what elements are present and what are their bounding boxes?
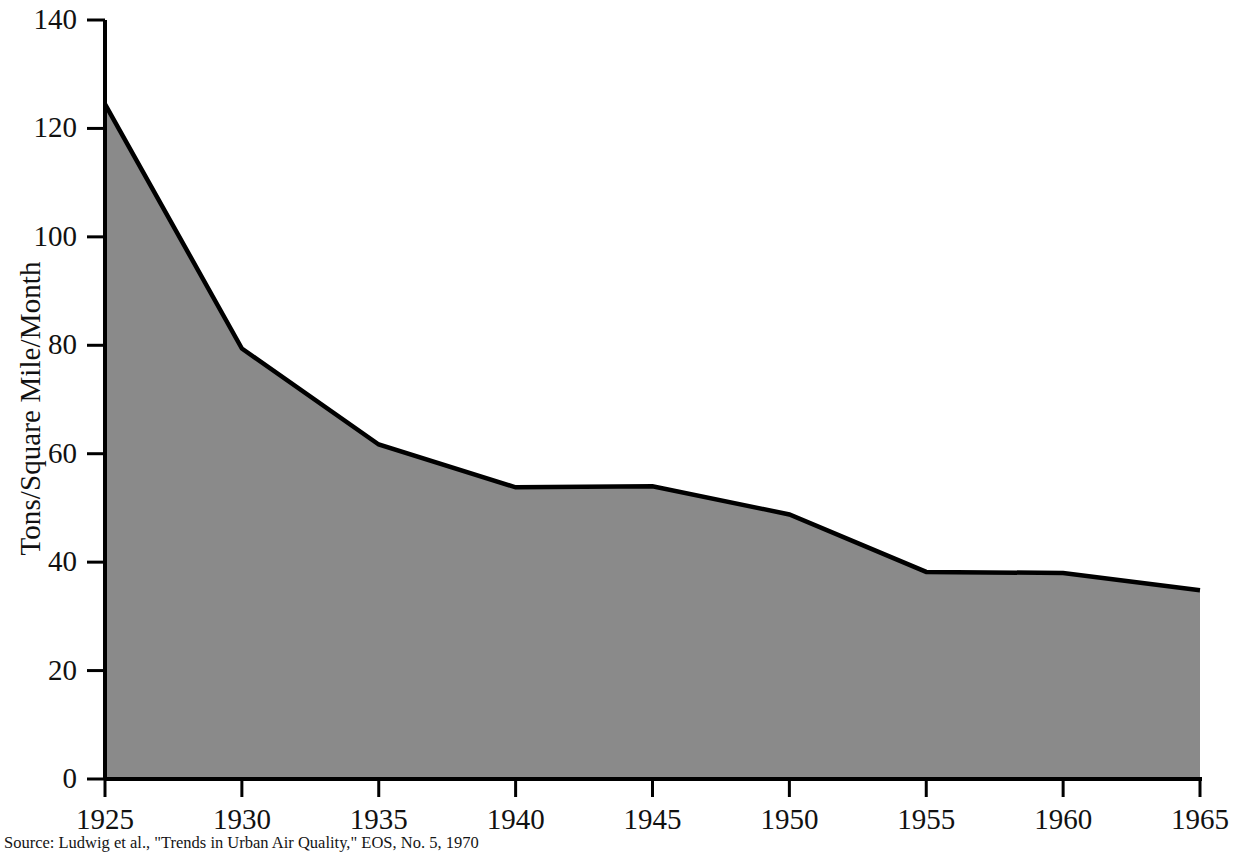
x-tick-label: 1950 xyxy=(729,805,849,834)
air-quality-area-chart: Tons/Square Mile/Month 02040608010012014… xyxy=(0,0,1233,854)
y-tick-label: 40 xyxy=(15,547,77,576)
x-tick-label: 1965 xyxy=(1140,805,1233,834)
x-tick-label: 1955 xyxy=(866,805,986,834)
x-tick-label: 1930 xyxy=(182,805,302,834)
x-tick-label: 1925 xyxy=(45,805,165,834)
y-tick-label: 20 xyxy=(15,656,77,685)
y-tick-label: 60 xyxy=(15,439,77,468)
x-tick-label: 1945 xyxy=(593,805,713,834)
y-tick-label: 140 xyxy=(15,5,77,34)
x-axis-ticks xyxy=(105,779,1200,797)
y-tick-label: 80 xyxy=(15,330,77,359)
y-tick-label: 100 xyxy=(15,222,77,251)
y-tick-label: 120 xyxy=(15,113,77,142)
x-tick-label: 1960 xyxy=(1003,805,1123,834)
source-caption: Source: Ludwig et al., "Trends in Urban … xyxy=(4,833,479,854)
area-series-fill xyxy=(105,104,1200,779)
x-tick-label: 1935 xyxy=(319,805,439,834)
y-tick-label: 0 xyxy=(15,764,77,793)
chart-canvas xyxy=(0,0,1233,854)
y-axis-ticks xyxy=(87,20,105,779)
x-tick-label: 1940 xyxy=(456,805,576,834)
